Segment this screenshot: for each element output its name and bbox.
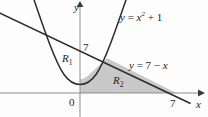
y-axis-label: y xyxy=(74,2,79,13)
region-r2-letter: R xyxy=(113,74,120,86)
region-r1-subscript: 1 xyxy=(69,58,73,67)
x-axis-arrowhead xyxy=(198,90,205,97)
line-eq-var: x xyxy=(163,59,168,71)
parabola-equation-label: y = x2 + 1 xyxy=(120,12,162,23)
x-intercept-tick-label: 7 xyxy=(170,98,176,109)
region-r1-letter: R xyxy=(62,52,69,64)
math-figure: y = x2 + 1 y = 7 − x y x 7 7 0 R1 R2 xyxy=(0,0,208,117)
region-r2-subscript: 2 xyxy=(120,80,124,89)
origin-label: 0 xyxy=(69,97,75,108)
x-axis-label: x xyxy=(196,99,201,110)
coordinate-plot xyxy=(0,0,208,117)
parabola-eq-constant: 1 xyxy=(157,11,163,23)
region-label-r2: R2 xyxy=(113,75,123,86)
y-intercept-tick-label: 7 xyxy=(83,42,89,53)
line-equation-label: y = 7 − x xyxy=(129,60,168,71)
region-label-r1: R1 xyxy=(62,53,72,64)
